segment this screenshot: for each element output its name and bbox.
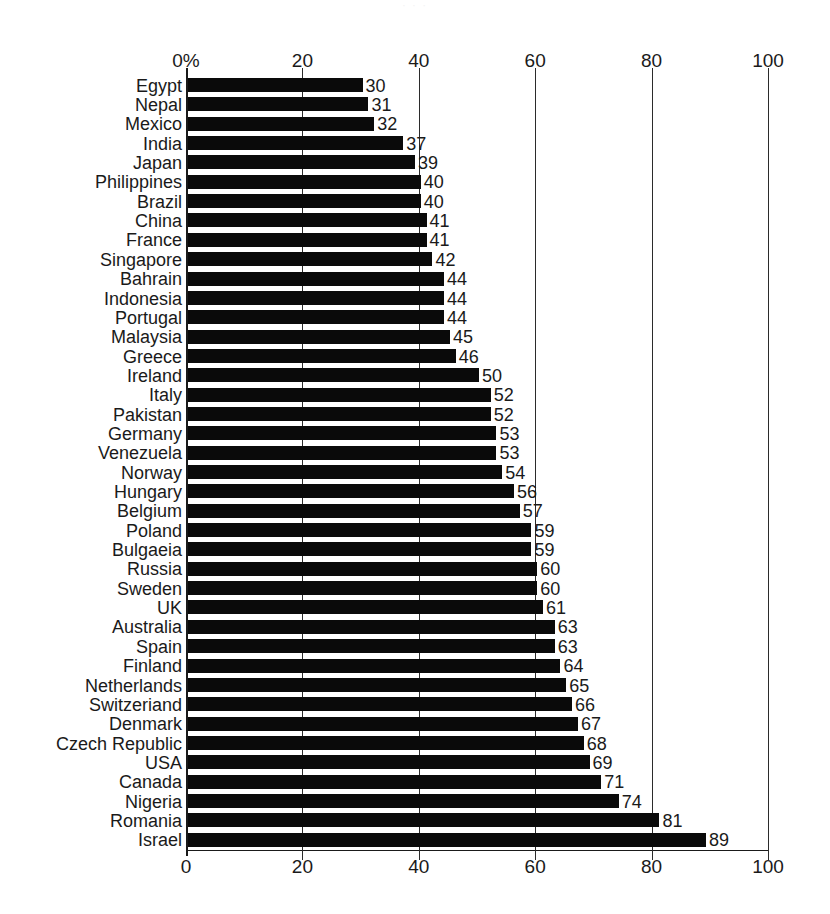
bar bbox=[188, 155, 415, 169]
bar bbox=[188, 117, 374, 131]
bar bbox=[188, 678, 566, 692]
bar-row: Denmark67 bbox=[0, 715, 830, 734]
category-label: Indonesia bbox=[104, 290, 182, 308]
category-label: France bbox=[126, 231, 182, 249]
bar-row: Germany53 bbox=[0, 424, 830, 443]
bar bbox=[188, 620, 555, 634]
category-label: Pakistan bbox=[113, 406, 182, 424]
bar bbox=[188, 349, 456, 363]
category-label: Portugal bbox=[115, 309, 182, 327]
bar-row: Romania81 bbox=[0, 811, 830, 830]
bar bbox=[188, 78, 363, 92]
bar-row: Spain63 bbox=[0, 637, 830, 656]
tickmark-bottom-40 bbox=[419, 850, 420, 860]
bar-value-label: 81 bbox=[662, 812, 682, 830]
tickmark-bottom-60 bbox=[535, 850, 536, 860]
bar-value-label: 64 bbox=[563, 657, 583, 675]
bar bbox=[188, 813, 659, 827]
bar bbox=[188, 523, 531, 537]
bar-row: Norway54 bbox=[0, 463, 830, 482]
bar-row: Netherlands65 bbox=[0, 676, 830, 695]
bar bbox=[188, 794, 619, 808]
bar bbox=[188, 600, 543, 614]
bar-row: Philippines40 bbox=[0, 173, 830, 192]
bar-value-label: 40 bbox=[424, 193, 444, 211]
category-label: Netherlands bbox=[85, 677, 182, 695]
bar-row: Greece46 bbox=[0, 347, 830, 366]
bar-value-label: 46 bbox=[459, 348, 479, 366]
bar-row: Finland64 bbox=[0, 657, 830, 676]
category-label: Mexico bbox=[125, 115, 182, 133]
bar bbox=[188, 484, 514, 498]
bar bbox=[188, 194, 421, 208]
bar bbox=[188, 542, 531, 556]
category-label: UK bbox=[157, 599, 182, 617]
category-label: Czech Republic bbox=[56, 735, 182, 753]
bar bbox=[188, 426, 496, 440]
bar-value-label: 31 bbox=[371, 96, 391, 114]
category-label: Italy bbox=[149, 386, 182, 404]
bar-row: Singapore42 bbox=[0, 250, 830, 269]
bar-value-label: 44 bbox=[447, 309, 467, 327]
category-label: Russia bbox=[127, 560, 182, 578]
bar-row: Canada71 bbox=[0, 773, 830, 792]
category-label: China bbox=[135, 212, 182, 230]
bar bbox=[188, 736, 584, 750]
bar-row: Belgium57 bbox=[0, 502, 830, 521]
bar-value-label: 63 bbox=[558, 638, 578, 656]
bar bbox=[188, 291, 444, 305]
bar-row: Israel89 bbox=[0, 831, 830, 850]
bar bbox=[188, 368, 479, 382]
bar bbox=[188, 446, 496, 460]
bar-value-label: 53 bbox=[499, 425, 519, 443]
x-tick-top-0: 0% bbox=[172, 50, 199, 72]
category-label: Nepal bbox=[135, 96, 182, 114]
horizontal-bar-chart: 0%20406080100 020406080100 Egypt30Nepal3… bbox=[0, 0, 830, 914]
bar-value-label: 41 bbox=[430, 231, 450, 249]
bar bbox=[188, 233, 427, 247]
bar-value-label: 57 bbox=[523, 502, 543, 520]
bar-value-label: 61 bbox=[546, 599, 566, 617]
bar-value-label: 89 bbox=[709, 831, 729, 849]
bar-row: Venezuela53 bbox=[0, 444, 830, 463]
bar bbox=[188, 504, 520, 518]
bar-row: Sweden60 bbox=[0, 579, 830, 598]
bar-row: Egypt30 bbox=[0, 76, 830, 95]
bar-value-label: 42 bbox=[435, 251, 455, 269]
category-label: Finland bbox=[123, 657, 182, 675]
bar bbox=[188, 330, 450, 344]
bar-value-label: 54 bbox=[505, 464, 525, 482]
bar-value-label: 41 bbox=[430, 212, 450, 230]
category-label: Brazil bbox=[137, 193, 182, 211]
category-label: Nigeria bbox=[125, 793, 182, 811]
tickmark-bottom-100 bbox=[768, 850, 769, 860]
category-label: Norway bbox=[121, 464, 182, 482]
category-label: Australia bbox=[112, 618, 182, 636]
bar-value-label: 63 bbox=[558, 618, 578, 636]
bar-row: Mexico32 bbox=[0, 115, 830, 134]
bar-value-label: 50 bbox=[482, 367, 502, 385]
category-label: Bahrain bbox=[120, 270, 182, 288]
bar-row: Switzeriand66 bbox=[0, 695, 830, 714]
bar-row: India37 bbox=[0, 134, 830, 153]
bar-row: USA69 bbox=[0, 753, 830, 772]
category-label: Egypt bbox=[136, 77, 182, 95]
bar bbox=[188, 136, 403, 150]
bar bbox=[188, 252, 432, 266]
bar-row: Bulgaeia59 bbox=[0, 540, 830, 559]
bar-row: Australia63 bbox=[0, 618, 830, 637]
bar-value-label: 71 bbox=[604, 773, 624, 791]
bar bbox=[188, 388, 491, 402]
bar-row: Indonesia44 bbox=[0, 289, 830, 308]
bar-row: Malaysia45 bbox=[0, 328, 830, 347]
bar-row: Ireland50 bbox=[0, 366, 830, 385]
tickmark-bottom-80 bbox=[652, 850, 653, 860]
bar bbox=[188, 697, 572, 711]
bar bbox=[188, 213, 427, 227]
category-label: Poland bbox=[126, 522, 182, 540]
x-tick-bottom-0: 0 bbox=[181, 856, 192, 878]
category-label: Spain bbox=[136, 638, 182, 656]
bar-row: Italy52 bbox=[0, 386, 830, 405]
bar-value-label: 30 bbox=[366, 77, 386, 95]
bar-value-label: 67 bbox=[581, 715, 601, 733]
